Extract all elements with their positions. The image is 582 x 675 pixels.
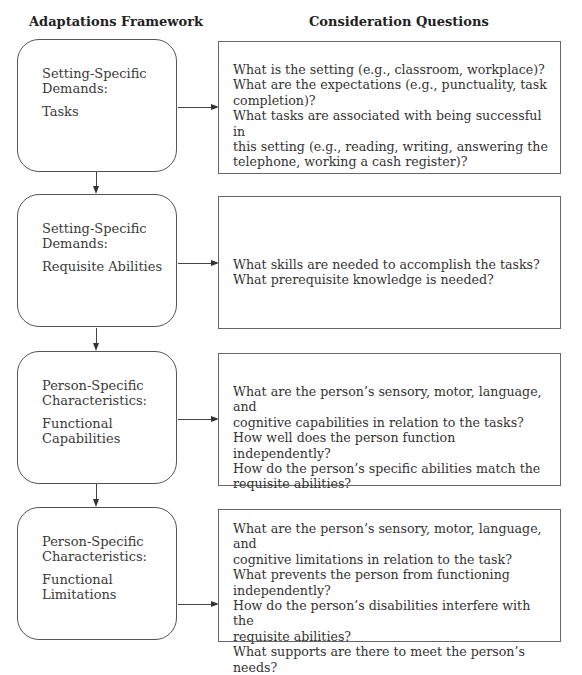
question-line: How do the person’s disabilities interfe… [233,598,550,629]
framework-node-tasks: Setting-Specific Demands: Tasks [17,39,177,172]
node-label: Limitations [42,587,147,602]
question-line: What supports are there to meet the pers… [233,644,550,675]
question-line: independently? [233,583,550,598]
connector-line [178,419,214,420]
node-category-line: Demands: [42,81,147,96]
question-line: What prerequisite knowledge is needed? [233,272,550,287]
questions-box-functional-limitations: What are the person’s sensory, motor, la… [218,509,561,642]
question-line: What is the setting (e.g., classroom, wo… [233,62,550,77]
node-label: Tasks [42,104,147,119]
node-category-line: Person-Specific [42,378,147,393]
question-line: How well does the person function indepe… [233,430,550,461]
framework-node-functional-limitations: Person-Specific Characteristics: Functio… [17,507,177,640]
question-line: telephone, working a cash register)? [233,154,550,169]
connector-line [96,172,97,186]
question-line: requisite abilities? [233,476,550,491]
question-line: What are the expectations (e.g., punctua… [233,77,550,92]
question-line: How do the person’s specific abilities m… [233,461,550,476]
node-category-line: Setting-Specific [42,66,147,81]
connector-line [178,107,214,108]
connector-line [178,263,214,264]
questions-box-functional-capabilities: What are the person’s sensory, motor, la… [218,353,561,486]
node-category-line: Person-Specific [42,534,147,549]
question-line: What are the person’s sensory, motor, la… [233,384,550,415]
question-line: this setting (e.g., reading, writing, an… [233,139,550,154]
question-line: What prevents the person from functionin… [233,567,550,582]
node-category-line: Demands: [42,236,162,251]
arrow-down-icon [93,343,99,351]
question-line: requisite abilities? [233,629,550,644]
questions-box-tasks: What is the setting (e.g., classroom, wo… [218,41,561,174]
framework-column-header: Adaptations Framework [29,14,203,29]
connector-line [96,484,97,499]
question-line: What skills are needed to accomplish the… [233,257,550,272]
question-line: completion)? [233,93,550,108]
node-category-line: Setting-Specific [42,221,162,236]
questions-column-header: Consideration Questions [309,14,489,29]
node-label: Functional [42,572,147,587]
node-category-line: Characteristics: [42,549,147,564]
connector-line [96,328,97,343]
questions-box-requisite-abilities: What skills are needed to accomplish the… [218,196,561,329]
arrow-down-icon [93,499,99,507]
question-line: cognitive capabilities in relation to th… [233,415,550,430]
node-label: Requisite Abilities [42,259,162,274]
framework-node-functional-capabilities: Person-Specific Characteristics: Functio… [17,351,177,484]
connector-line [178,604,214,605]
question-line: cognitive limitations in relation to the… [233,552,550,567]
node-label: Capabilities [42,431,147,446]
question-line: What tasks are associated with being suc… [233,108,550,139]
question-line: What are the person’s sensory, motor, la… [233,521,550,552]
node-category-line: Characteristics: [42,393,147,408]
arrow-down-icon [93,186,99,194]
framework-node-requisite-abilities: Setting-Specific Demands: Requisite Abil… [17,194,177,327]
node-label: Functional [42,416,147,431]
